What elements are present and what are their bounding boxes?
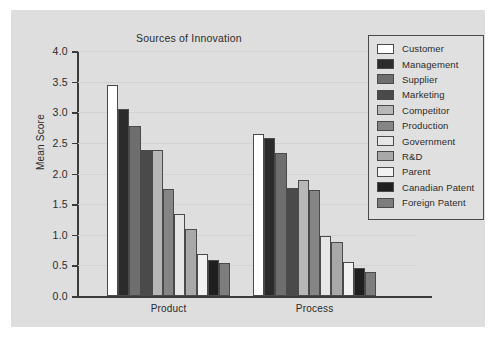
legend-item[interactable]: Foreign Patent <box>369 195 483 210</box>
y-tick-label: 0.0 <box>53 290 69 302</box>
legend-label: Canadian Patent <box>402 182 474 193</box>
grid-line <box>78 82 417 83</box>
legend-item[interactable]: Competitor <box>369 103 483 118</box>
bar <box>287 188 298 296</box>
grid-line <box>78 51 417 52</box>
y-tick-label: 3.5 <box>53 76 69 88</box>
legend-item[interactable]: Government <box>369 133 483 148</box>
legend-swatch-icon <box>377 151 394 161</box>
legend-label: Government <box>402 136 455 147</box>
bar <box>208 260 219 296</box>
y-tick-label: 2.0 <box>53 168 69 180</box>
legend-label: Production <box>402 120 448 131</box>
bar <box>320 236 331 296</box>
bar <box>253 134 264 296</box>
legend-swatch-icon <box>377 59 394 69</box>
legend-label: Marketing <box>402 89 445 100</box>
legend-swatch-icon <box>377 90 394 100</box>
bar <box>343 262 354 296</box>
bar <box>141 150 152 296</box>
bar <box>107 85 118 296</box>
x-group-label: Process <box>296 303 334 314</box>
y-axis-label: Mean Score <box>35 114 46 170</box>
bar <box>197 254 208 296</box>
x-axis-line <box>77 296 432 298</box>
legend-swatch-icon <box>377 182 394 192</box>
bar <box>309 190 320 296</box>
chart-title: Sources of Innovation <box>136 32 242 44</box>
x-group-label: Product <box>151 303 187 314</box>
legend-item[interactable]: Canadian Patent <box>369 180 483 195</box>
bar <box>219 263 230 296</box>
legend-swatch-icon <box>377 167 394 177</box>
legend-item[interactable]: R&D <box>369 149 483 164</box>
legend-label: Parent <box>402 166 431 177</box>
legend-label: R&D <box>402 151 422 162</box>
legend-label: Customer <box>402 43 444 54</box>
legend-swatch-icon <box>377 121 394 131</box>
legend-item[interactable]: Management <box>369 56 483 71</box>
legend-item[interactable]: Supplier <box>369 72 483 87</box>
bar <box>163 189 174 296</box>
bar <box>275 153 286 296</box>
bar <box>331 242 342 296</box>
bar <box>185 229 196 296</box>
legend-swatch-icon <box>377 105 394 115</box>
bar <box>129 126 140 296</box>
y-tick-label: 2.5 <box>53 137 69 149</box>
legend-swatch-icon <box>377 44 394 54</box>
y-tick-label: 3.0 <box>53 106 69 118</box>
y-tick-label: 4.0 <box>53 45 69 57</box>
bar <box>152 150 163 296</box>
chart-figure: Sources of Innovation Mean Score 0.00.51… <box>11 10 485 327</box>
legend-item[interactable]: Marketing <box>369 87 483 102</box>
legend-swatch-icon <box>377 136 394 146</box>
legend-label: Competitor <box>402 105 449 116</box>
bar <box>174 214 185 296</box>
y-tick-label: 0.5 <box>53 259 69 271</box>
y-tick-label: 1.0 <box>53 229 69 241</box>
y-tick-label: 1.5 <box>53 198 69 210</box>
chart-legend: CustomerManagementSupplierMarketingCompe… <box>368 35 484 220</box>
bar <box>298 180 309 296</box>
bar <box>365 272 376 297</box>
plot-area: 0.00.51.01.52.02.53.03.54.0 ProductProce… <box>77 51 417 296</box>
legend-swatch-icon <box>377 74 394 84</box>
legend-item[interactable]: Parent <box>369 164 483 179</box>
bar <box>118 109 129 296</box>
bar <box>354 268 365 296</box>
bar <box>264 138 275 296</box>
legend-item[interactable]: Production <box>369 118 483 133</box>
legend-label: Supplier <box>402 74 438 85</box>
y-tick <box>72 296 78 298</box>
legend-label: Management <box>402 59 458 70</box>
legend-swatch-icon <box>377 198 394 208</box>
legend-item[interactable]: Customer <box>369 41 483 56</box>
legend-label: Foreign Patent <box>402 197 466 208</box>
